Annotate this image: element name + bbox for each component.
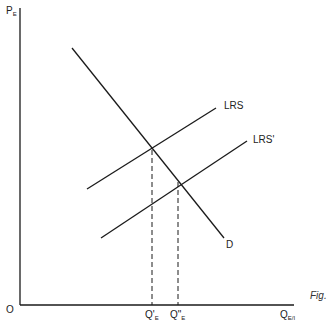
q-double-prime-label: Q"E (170, 309, 185, 320)
lrs-prime-curve (101, 141, 247, 238)
origin-label: O (6, 304, 14, 315)
diagram-canvas: PE O QE/I Q'E Q"E LRS LRS' D Fig. (0, 0, 328, 320)
figure-caption: Fig. (310, 290, 327, 301)
lrs-prime-label: LRS' (253, 134, 274, 145)
y-axis-label: PE (6, 5, 17, 17)
lrs-label: LRS (224, 100, 244, 111)
demand-curve (72, 48, 224, 238)
q-prime-label: Q'E (145, 309, 159, 320)
demand-label: D (226, 239, 233, 250)
x-axis-label: QE/I (280, 309, 295, 320)
